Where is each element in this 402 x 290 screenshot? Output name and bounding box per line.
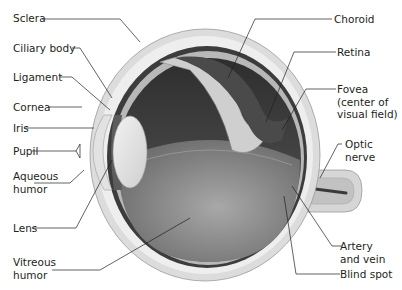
label-cornea: Cornea	[13, 101, 50, 114]
label-retina: Retina	[337, 46, 370, 59]
label-fovea: Fovea (center of visual field)	[337, 83, 398, 121]
label-pupil: Pupil	[13, 145, 38, 158]
label-aqueous-humor: Aqueous humor	[13, 170, 58, 195]
label-iris: Iris	[13, 122, 29, 135]
label-ciliary-body: Ciliary body	[13, 42, 75, 55]
label-blind-spot: Blind spot	[340, 268, 392, 281]
label-ligament: Ligament	[13, 71, 62, 84]
label-artery-and-vein: Artery and vein	[340, 240, 385, 265]
label-sclera: Sclera	[13, 12, 46, 25]
label-lens: Lens	[13, 222, 37, 235]
label-optic-nerve: Optic nerve	[345, 138, 375, 163]
label-choroid: Choroid	[334, 13, 375, 26]
label-vitreous-humor: Vitreous humor	[13, 256, 56, 281]
eye-diagram: Sclera Ciliary body Ligament Cornea Iris…	[0, 0, 402, 290]
